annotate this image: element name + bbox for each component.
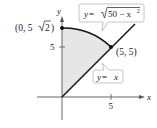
svg-text:(0, 5: (0, 5 [15,23,33,34]
svg-text:50 − x: 50 − x [108,9,132,19]
y-tick-label-5: 5 [50,42,55,52]
region-diagram: x y 5 5 (0, 5 2 ) (5, 5) y = 50 − x 2 y … [0,0,157,128]
svg-text:x: x [113,72,118,82]
y-axis-arrow-icon [60,16,64,22]
svg-text:2: 2 [45,23,50,33]
point-top [60,26,64,30]
x-tick-label-5: 5 [109,101,114,111]
svg-text:=: = [89,9,94,19]
svg-text:y: y [83,9,88,19]
point-intersection [109,45,113,49]
svg-text:=: = [102,72,107,82]
x-axis-label: x [146,92,151,102]
svg-text:y: y [96,72,101,82]
shaded-region [62,28,111,97]
callout-line-equation: y = x [93,63,123,83]
point-label-intersection: (5, 5) [116,47,137,58]
point-label-top: (0, 5 2 ) [15,21,54,34]
x-axis-arrow-icon [139,95,145,99]
callout-circle-equation: y = 50 − x 2 [79,4,144,31]
y-axis-label: y [56,6,61,16]
svg-text:2: 2 [137,8,140,14]
svg-text:): ) [51,23,54,34]
